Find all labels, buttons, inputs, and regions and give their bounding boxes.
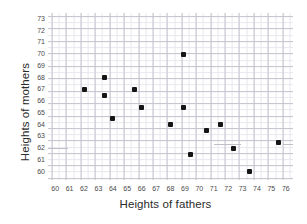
data-point xyxy=(247,169,252,174)
x-axis-title-text: Heights of fathers xyxy=(120,198,212,210)
y-tick-label: 66 xyxy=(29,97,45,105)
data-point xyxy=(218,122,223,127)
y-tick-label: 67 xyxy=(29,85,45,93)
y-tick-label: 73 xyxy=(29,15,45,23)
data-point xyxy=(82,87,87,92)
data-points-layer xyxy=(48,13,293,180)
data-point xyxy=(276,140,281,145)
data-point xyxy=(204,128,209,133)
scatter-plot-figure: Heights of mothers 606162636465666768697… xyxy=(0,0,307,224)
data-point xyxy=(132,87,137,92)
y-tick-label: 69 xyxy=(29,62,45,70)
y-tick-label: 70 xyxy=(29,50,45,58)
y-tick-label: 62 xyxy=(29,144,45,152)
y-axis-tick-labels: 6061626364656667686970717273 xyxy=(26,13,45,180)
x-axis-tick-labels: 6061626364656667686970717273747576 xyxy=(48,185,293,195)
data-point xyxy=(188,152,193,157)
data-point xyxy=(139,105,144,110)
y-tick-label: 64 xyxy=(29,121,45,129)
y-tick-label: 68 xyxy=(29,74,45,82)
y-tick-label: 61 xyxy=(29,156,45,164)
y-tick-label: 63 xyxy=(29,132,45,140)
data-point xyxy=(181,52,186,57)
data-point xyxy=(181,105,186,110)
data-point xyxy=(102,75,107,80)
y-tick-label: 72 xyxy=(29,27,45,35)
data-point xyxy=(231,146,236,151)
x-tick-label: 76 xyxy=(277,185,295,193)
data-point xyxy=(102,93,107,98)
y-tick-label: 71 xyxy=(29,38,45,46)
data-point xyxy=(168,122,173,127)
data-point xyxy=(110,116,115,121)
y-tick-label: 60 xyxy=(29,168,45,176)
x-axis-title: Heights of fathers xyxy=(0,198,307,210)
y-tick-label: 65 xyxy=(29,109,45,117)
plot-area xyxy=(48,13,293,180)
